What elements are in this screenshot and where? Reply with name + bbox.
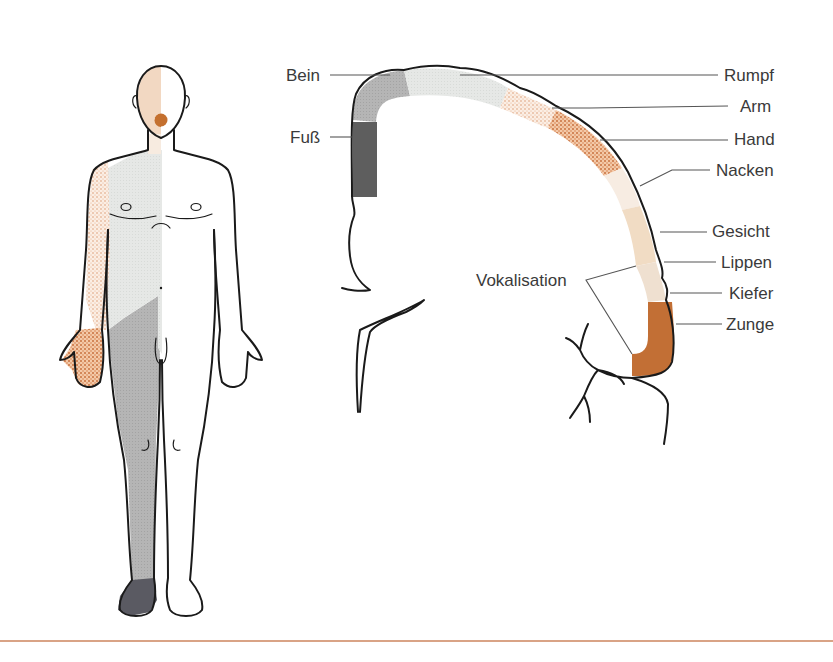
label-arm: Arm: [740, 97, 771, 116]
human-body-figure: [60, 66, 262, 616]
motor-cortex-somatotopy-figure: Bein Fuß Rumpf Arm Hand Nacken Gesicht L…: [0, 0, 833, 662]
cortex-hand-zone: [548, 110, 622, 176]
label-vokalisation: Vokalisation: [476, 271, 567, 290]
label-lippen: Lippen: [721, 253, 772, 272]
label-bein: Bein: [286, 66, 320, 85]
label-nacken: Nacken: [716, 161, 774, 180]
cortex-zunge-zone: [632, 302, 674, 376]
label-zunge: Zunge: [726, 315, 774, 334]
label-fuss: Fuß: [290, 128, 320, 147]
leg-region: [108, 296, 160, 580]
cortex-section-figure: Bein Fuß Rumpf Arm Hand Nacken Gesicht L…: [286, 66, 775, 444]
bottom-divider-rule: [0, 640, 833, 642]
cortex-arm-zone: [500, 88, 556, 128]
label-hand: Hand: [734, 130, 775, 149]
cortex-gesicht-zone: [622, 206, 656, 266]
label-rumpf: Rumpf: [724, 66, 774, 85]
cortex-nacken-zone: [604, 168, 640, 210]
label-kiefer: Kiefer: [729, 284, 774, 303]
label-gesicht: Gesicht: [712, 222, 770, 241]
cortex-bein-zone: [353, 70, 410, 122]
cortex-fuss-zone: [353, 122, 377, 197]
